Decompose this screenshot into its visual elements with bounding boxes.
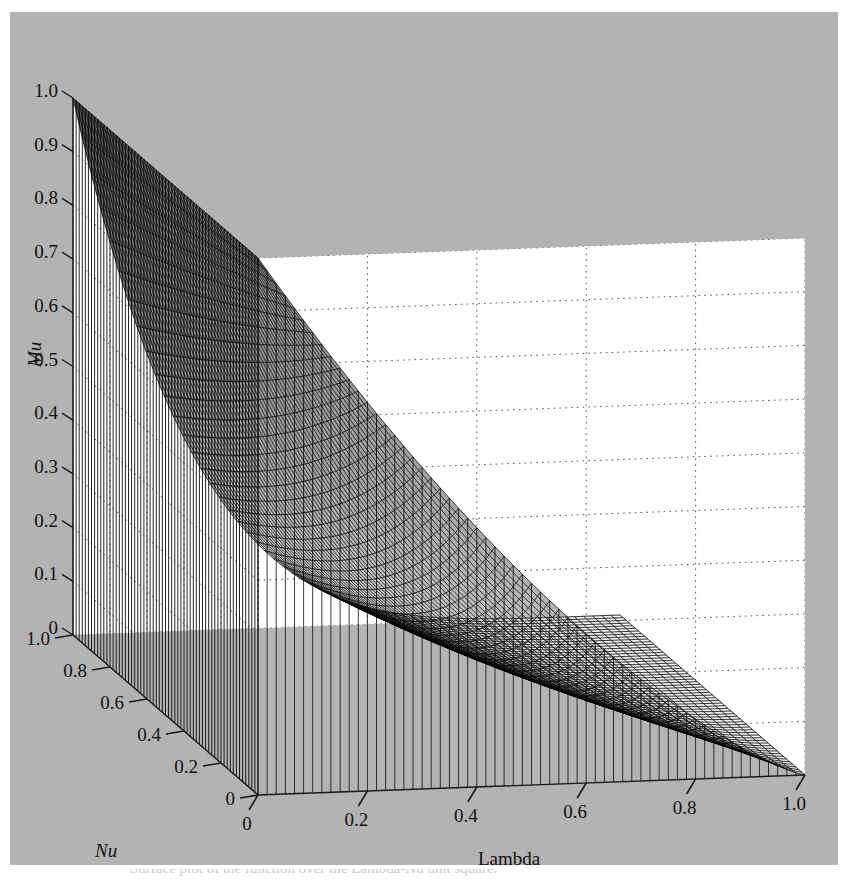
axis-label-nu: Nu (95, 840, 117, 862)
axis-label-mu: Mu (24, 342, 46, 367)
tick-label-nu-2: 0.6 (100, 692, 124, 713)
tick-label-lambda-0: 0 (242, 813, 252, 834)
tick-label-mu-1: 0.9 (34, 134, 58, 155)
tick-label-lambda-2: 0.4 (454, 805, 478, 826)
tick-label-lambda-5: 1.0 (782, 793, 806, 814)
tick-label-lambda-1: 0.2 (345, 809, 369, 830)
tick-label-lambda-4: 0.8 (673, 797, 697, 818)
tick-label-nu-0: 1.0 (26, 628, 50, 649)
tick-label-mu-2: 0.8 (34, 187, 58, 208)
tick-label-mu-0: 1.0 (34, 80, 58, 101)
surface-plot-svg: 1.00.90.80.70.60.50.40.30.20.101.00.80.6… (10, 12, 838, 865)
tick-label-mu-8: 0.2 (34, 510, 58, 531)
tick-label-lambda-3: 0.6 (563, 801, 587, 822)
tick-label-mu-4: 0.6 (34, 295, 58, 316)
tick-label-mu-9: 0.1 (34, 563, 58, 584)
caption-strip: Surface plot of the function over the La… (10, 869, 838, 891)
plot-panel: 1.00.90.80.70.60.50.40.30.20.101.00.80.6… (10, 12, 838, 865)
tick-label-nu-1: 0.8 (63, 660, 87, 681)
tick-label-mu-3: 0.7 (34, 241, 58, 262)
tick-label-nu-4: 0.2 (174, 756, 198, 777)
tick-label-mu-7: 0.3 (34, 456, 58, 477)
figure-caption: Surface plot of the function over the La… (130, 869, 497, 877)
tick-label-nu-5: 0 (226, 788, 236, 809)
tick-label-mu-6: 0.4 (34, 402, 58, 423)
tick-label-nu-3: 0.4 (137, 724, 161, 745)
axis-label-lambda: Lambda (478, 848, 540, 865)
figure-container: 1.00.90.80.70.60.50.40.30.20.101.00.80.6… (0, 0, 848, 894)
